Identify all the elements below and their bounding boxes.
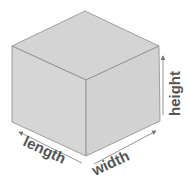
cube-diagram: length width height <box>0 0 188 180</box>
height-label: height <box>166 71 183 116</box>
